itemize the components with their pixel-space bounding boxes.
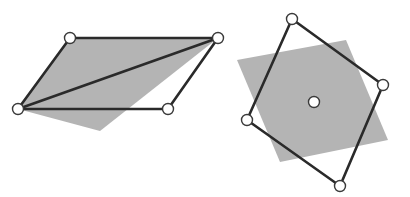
- vertex-point-icon: [242, 115, 253, 126]
- vertex-point-icon: [65, 33, 76, 44]
- right-diagram: [237, 14, 389, 192]
- vertex-point-icon: [287, 14, 298, 25]
- geometry-diagram: [0, 0, 410, 197]
- vertex-point-icon: [335, 181, 346, 192]
- center-point-icon: [309, 97, 320, 108]
- vertex-point-icon: [213, 33, 224, 44]
- vertex-point-icon: [13, 104, 24, 115]
- left-diagram: [13, 33, 224, 132]
- left-shaded-triangle: [18, 38, 218, 131]
- vertex-point-icon: [378, 80, 389, 91]
- vertex-point-icon: [163, 104, 174, 115]
